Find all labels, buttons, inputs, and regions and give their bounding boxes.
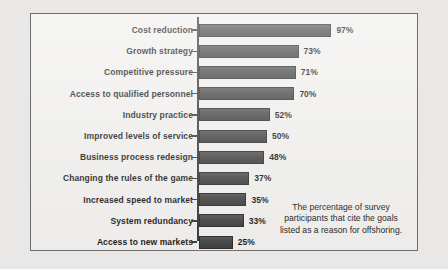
bar bbox=[199, 66, 296, 79]
bar-category-label: Access to qualified personnel bbox=[31, 89, 193, 99]
axis-tick-mark bbox=[191, 72, 197, 74]
bar-value-label: 37% bbox=[254, 173, 271, 183]
axis-tick-mark bbox=[191, 220, 197, 222]
bar-category-label: Growth strategy bbox=[31, 46, 193, 56]
bar bbox=[199, 236, 233, 249]
plot-area: Cost reduction97%Growth strategy73%Compe… bbox=[31, 14, 417, 250]
bar-value-label: 97% bbox=[336, 25, 353, 35]
bar-category-label: System redundancy bbox=[31, 216, 193, 226]
axis-tick-mark bbox=[191, 114, 197, 116]
bar-category-label: Access to new markets bbox=[31, 237, 193, 247]
bar-row: Changing the rules of the game37% bbox=[31, 168, 417, 189]
bar-value-label: 73% bbox=[304, 46, 321, 56]
axis-tick-mark bbox=[191, 135, 197, 137]
bar bbox=[199, 130, 268, 143]
bar bbox=[199, 87, 295, 100]
bar-value-label: 50% bbox=[272, 131, 289, 141]
axis-tick-mark bbox=[191, 93, 197, 95]
bar-category-label: Increased speed to market bbox=[31, 195, 193, 205]
bar-row: Competitive pressure71% bbox=[31, 62, 417, 83]
bar-category-label: Business process redesign bbox=[31, 152, 193, 162]
bar bbox=[199, 193, 247, 206]
bar bbox=[199, 45, 299, 58]
axis-tick-mark bbox=[191, 157, 197, 159]
bar-row: Growth strategy73% bbox=[31, 41, 417, 62]
axis-tick-mark bbox=[191, 199, 197, 201]
bar-value-label: 33% bbox=[249, 216, 266, 226]
bar-category-label: Competitive pressure bbox=[31, 67, 193, 77]
bar bbox=[199, 214, 244, 227]
bar bbox=[199, 172, 250, 185]
bar-category-label: Improved levels of service bbox=[31, 131, 193, 141]
bar bbox=[199, 151, 265, 164]
bar-value-label: 71% bbox=[301, 67, 318, 77]
bar-row: Access to qualified personnel70% bbox=[31, 83, 417, 104]
chart-screenshot: Cost reduction97%Growth strategy73%Compe… bbox=[0, 0, 448, 269]
axis-tick-mark bbox=[191, 51, 197, 53]
chart-panel: Cost reduction97%Growth strategy73%Compe… bbox=[30, 13, 418, 251]
bar-value-label: 25% bbox=[238, 237, 255, 247]
bar-value-label: 35% bbox=[251, 195, 268, 205]
bar bbox=[199, 24, 332, 37]
axis-tick-mark bbox=[191, 178, 197, 180]
bar-value-label: 70% bbox=[299, 89, 316, 99]
bar-value-label: 48% bbox=[269, 152, 286, 162]
bar bbox=[199, 108, 270, 121]
axis-tick-mark bbox=[191, 29, 197, 31]
bar-row: Cost reduction97% bbox=[31, 20, 417, 41]
bar-category-label: Changing the rules of the game bbox=[31, 173, 193, 183]
chart-annotation: The percentage of survey participants th… bbox=[277, 202, 405, 236]
bar-row: Business process redesign48% bbox=[31, 147, 417, 168]
bar-value-label: 52% bbox=[275, 110, 292, 120]
bar-category-label: Industry practice bbox=[31, 110, 193, 120]
bar-row: Improved levels of service50% bbox=[31, 126, 417, 147]
bar-category-label: Cost reduction bbox=[31, 25, 193, 35]
bar-row: Industry practice52% bbox=[31, 104, 417, 125]
axis-tick-mark bbox=[191, 241, 197, 243]
